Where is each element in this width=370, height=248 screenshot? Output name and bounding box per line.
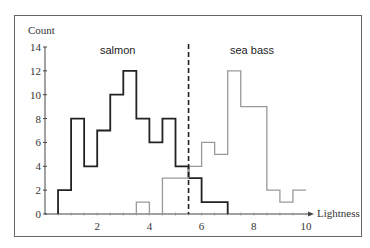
y-tick-label: 0 — [36, 208, 42, 220]
sea-bass-label: sea bass — [230, 44, 275, 56]
x-tick-label: 10 — [301, 220, 313, 232]
sea-bass-histogram — [162, 71, 306, 214]
x-axis-title: Lightness — [317, 207, 360, 219]
y-tick-label: 4 — [36, 160, 42, 172]
histogram-chart: 02468101214246810 Count Lightness salmon… — [0, 0, 370, 248]
x-tick-label: 4 — [147, 220, 153, 232]
x-tick-label: 8 — [251, 220, 257, 232]
y-tick-label: 8 — [36, 113, 42, 125]
y-tick-label: 2 — [36, 184, 42, 196]
y-tick-label: 12 — [30, 65, 41, 77]
x-axis-arrow-icon — [308, 212, 314, 217]
y-axis-title: Count — [28, 24, 55, 36]
series-layer — [58, 71, 306, 214]
y-tick-label: 14 — [30, 41, 42, 53]
sea-bass-bin-outline — [136, 202, 149, 214]
x-tick-label: 2 — [94, 220, 100, 232]
axes: 02468101214246810 — [30, 41, 314, 232]
y-tick-label: 10 — [30, 89, 42, 101]
salmon-label: salmon — [100, 44, 135, 56]
y-tick-label: 6 — [36, 136, 42, 148]
x-tick-label: 6 — [199, 220, 205, 232]
chart-canvas: 02468101214246810 Count Lightness salmon… — [0, 0, 370, 248]
